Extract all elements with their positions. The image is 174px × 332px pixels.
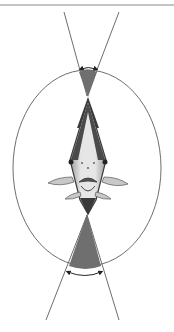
fish-dot-center [87,167,89,169]
lower-angle-arrow [68,272,101,276]
fish-ventral-fin [80,198,96,215]
fish-pectoral-fin-left [48,177,74,185]
fish-nostril-left [81,162,83,164]
fish-left-eye [69,160,74,165]
fish-pectoral-fin-right [102,177,128,186]
diagram-svg [0,0,174,332]
fish-pelvic-fin-left [65,192,81,199]
fish-pelvic-fin-right [95,192,111,199]
fish-nostril-right [93,162,95,164]
upper-shaded-wedge [79,70,97,98]
upper-angle-arrow [81,68,96,70]
fish-right-eye [103,160,108,165]
fish-visual-field-diagram [0,0,174,332]
lower-shaded-wedge [69,214,101,269]
fish-illustration [48,97,128,215]
